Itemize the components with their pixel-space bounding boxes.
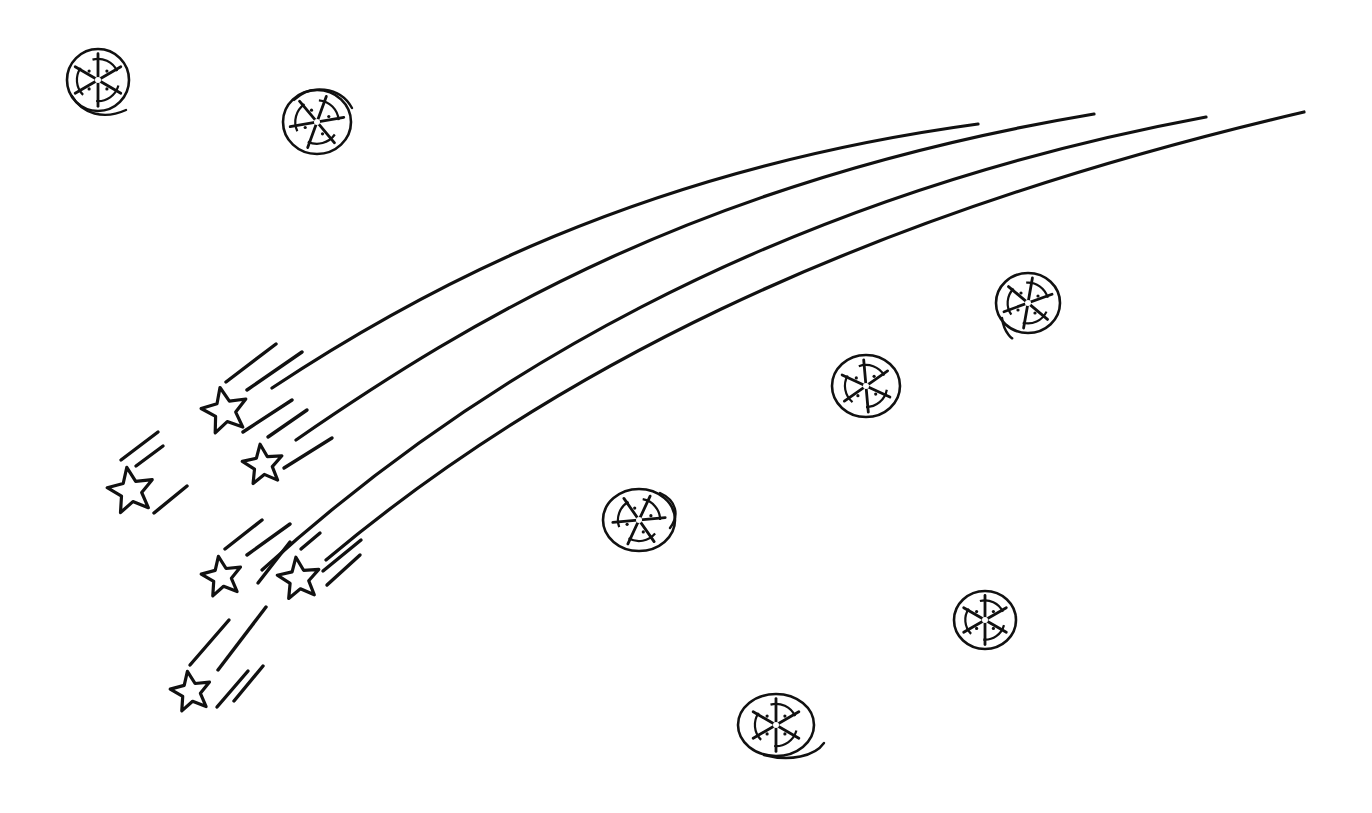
motion-streak (218, 607, 266, 670)
star-icon (201, 388, 246, 433)
motion-streak (225, 520, 262, 549)
trail-line (296, 114, 1094, 440)
star-icon (201, 556, 240, 596)
motion-streak (136, 446, 163, 466)
motion-streak (268, 410, 307, 437)
motion-streak (301, 533, 320, 549)
star-icon (170, 671, 209, 711)
shooting-star-trails (262, 112, 1304, 570)
illustration-canvas (0, 0, 1372, 813)
motion-streak (190, 620, 229, 665)
snowflake-ornament-icon (996, 273, 1060, 338)
star-icon (242, 444, 282, 483)
snowflake-ornament-icon (832, 355, 900, 417)
snowflake-ornament-icon (954, 591, 1016, 649)
snowflake-ornament-icon (603, 489, 675, 551)
motion-streak (154, 486, 187, 513)
snowflake-ornament-icon (67, 49, 129, 115)
trail-line (262, 117, 1206, 570)
motion-streak (284, 438, 332, 468)
snowflake-ornament-icon (738, 694, 824, 758)
star-icon (277, 557, 319, 598)
motion-streak (327, 555, 360, 585)
star-icon (107, 467, 152, 512)
snowflake-ornament-icon (283, 90, 352, 154)
